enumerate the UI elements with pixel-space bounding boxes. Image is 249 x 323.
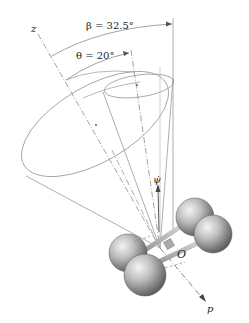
arc-extension-2 <box>83 82 140 98</box>
beta-arrowhead <box>166 22 172 27</box>
sphere-right <box>194 215 232 253</box>
dash-line-a <box>112 150 160 248</box>
dash-line-b <box>165 262 185 268</box>
inner-cone-axis <box>131 50 160 248</box>
beta-label: β = 32.5° <box>86 20 134 31</box>
precession-diagram: z β = 32.5° θ = 20° ψ̇ p O <box>0 0 249 323</box>
p-axis-arrowhead <box>199 294 206 302</box>
inner-cone-center-dot <box>136 84 138 86</box>
psi-dot-label: ψ̇ <box>153 174 161 185</box>
inner-cone-side-left <box>103 92 160 248</box>
psi-dot-vector <box>158 186 159 232</box>
hub <box>164 239 175 250</box>
outer-cone-center-dot <box>95 124 97 126</box>
z-axis-label: z <box>30 23 37 34</box>
theta-label: θ = 20° <box>76 50 114 61</box>
outer-cone-side-lower <box>26 176 160 248</box>
theta-arrowhead <box>123 51 129 56</box>
molecule <box>109 198 232 296</box>
p-axis-label: p <box>207 303 214 314</box>
z-axis-line <box>38 34 160 248</box>
origin-label: O <box>177 248 186 261</box>
sphere-front-bottom <box>124 254 166 296</box>
